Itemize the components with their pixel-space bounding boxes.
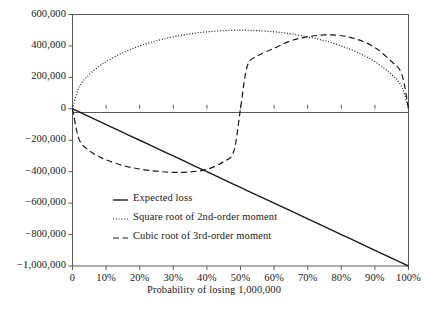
- x-tick-label: 100%: [384, 272, 428, 283]
- y-tick-label: 0: [0, 102, 66, 113]
- legend-label: Expected loss: [133, 192, 192, 203]
- y-tick-label: −600,000: [0, 196, 66, 207]
- zero-line-ticks: [106, 105, 408, 109]
- plot-frame: [73, 15, 409, 267]
- legend-label: Square root of 2nd-order moment: [133, 211, 277, 222]
- series-line: [73, 30, 409, 109]
- legend-line-samples: [113, 200, 128, 238]
- y-tick-label: 600,000: [0, 8, 66, 19]
- chart-figure: 600,000400,000200,0000−200,000−400,000−6…: [0, 0, 428, 310]
- y-tick-label: 200,000: [0, 70, 66, 81]
- x-axis-title: Probability of losing 1,000,000: [0, 284, 428, 295]
- legend-label: Cubic root of 3rd-order moment: [133, 230, 271, 241]
- y-axis-ticks: [69, 15, 73, 267]
- x-axis-ticks: [73, 266, 409, 270]
- series-line: [73, 109, 409, 266]
- y-tick-label: −1,000,000: [0, 259, 66, 270]
- series-line: [73, 35, 409, 172]
- y-tick-label: −800,000: [0, 228, 66, 239]
- y-tick-label: −200,000: [0, 133, 66, 144]
- y-tick-label: −400,000: [0, 165, 66, 176]
- y-tick-label: 400,000: [0, 39, 66, 50]
